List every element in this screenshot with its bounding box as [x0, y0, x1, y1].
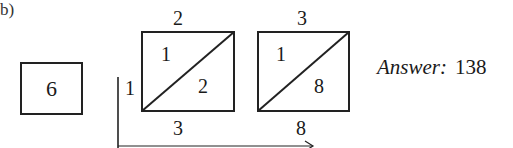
answer-value: 138: [455, 55, 487, 79]
top-digit-2: 3: [292, 8, 312, 28]
top-digit-1: 2: [168, 8, 188, 28]
cell-1-tens: 1: [156, 44, 176, 64]
left-digit: 1: [120, 78, 140, 98]
arrow-right-icon: [305, 141, 313, 148]
answer-label: Answer:: [377, 55, 447, 79]
cell-1-units: 2: [193, 76, 213, 96]
answer: Answer:138: [377, 55, 487, 80]
cell-2-tens: 1: [271, 44, 291, 64]
bottom-digit-2: 8: [291, 118, 311, 138]
bottom-digit-1: 3: [168, 118, 188, 138]
cell-2-units: 8: [309, 76, 329, 96]
